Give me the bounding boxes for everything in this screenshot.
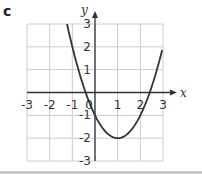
x-tick-label: 1 — [114, 98, 122, 112]
x-axis-arrow-icon — [170, 90, 177, 96]
y-tick-label: -1 — [79, 108, 91, 122]
bottom-divider — [0, 171, 202, 174]
x-tick-label: 3 — [159, 98, 167, 112]
y-tick-label: 2 — [83, 40, 91, 54]
y-axis-label: y — [80, 3, 88, 17]
parabola-chart: xy -3-2-10123321-1-2-3 — [0, 0, 202, 174]
y-axis-arrow-icon — [92, 11, 98, 18]
x-tick-label: -3 — [21, 98, 33, 112]
x-tick-label: -1 — [66, 98, 78, 112]
y-tick-label: 1 — [83, 63, 91, 77]
x-tick-label: -2 — [44, 98, 56, 112]
y-tick-label: -2 — [79, 131, 91, 145]
y-tick-label: -3 — [79, 154, 91, 168]
x-axis-label: x — [180, 86, 187, 100]
y-tick-label: 3 — [83, 17, 91, 31]
